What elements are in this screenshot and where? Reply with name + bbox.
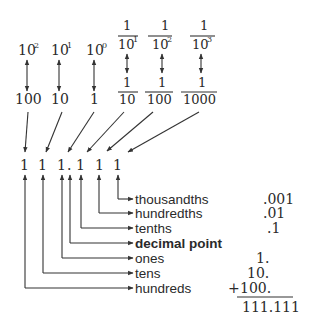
svg-text:1: 1 [200,18,208,33]
power-exponent: 0 [102,41,107,50]
arrow-icon [107,112,153,151]
digit-hundreds: 1 [20,157,29,173]
digit-thousandths: 1 [113,157,122,173]
sum-column: .001 .01 .1 1. 10. + 100. 111.111 [228,191,300,315]
place-labels: thousandths hundredths tenths decimal po… [135,192,223,296]
label-thousandths: thousandths [135,192,209,207]
label-tens: tens [135,266,161,281]
power-value: 1 [90,91,99,107]
arrow-icon [128,112,199,152]
mapping-arrows [25,112,199,152]
digit-tenths: 1 [76,157,85,173]
svg-text:1000: 1000 [183,92,216,107]
value-hundreds: 100. [240,280,271,296]
value-tenths: .1 [267,220,280,236]
fraction-thousandths: 1 10 3 1 1000 [181,18,217,107]
svg-text:1: 1 [158,75,166,90]
digit-tens: 1 [38,157,47,173]
label-connectors [25,175,133,288]
svg-text:1: 1 [161,18,169,33]
label-decimal-point: decimal point [135,236,223,251]
decimal-point: . [67,157,71,173]
svg-text:1: 1 [123,18,131,33]
place-value-diagram: 10 2 100 10 1 10 10 0 1 1 10 1 1 10 1 10… [0,0,309,321]
value-ones: 1. [256,250,269,266]
power-ones: 10 0 1 [86,41,107,107]
svg-text:100: 100 [147,92,172,107]
power-value: 100 [15,91,42,107]
label-ones: ones [135,251,165,266]
power-exponent: 2 [34,41,39,50]
arrow-icon [25,112,28,152]
sum-total: 111.111 [242,299,300,315]
power-tens: 10 1 10 [51,41,72,107]
arrow-icon [87,112,124,152]
power-hundreds: 10 2 100 [15,41,42,107]
plus-sign: + [228,280,240,296]
power-value: 10 [51,91,69,107]
value-hundredths: .01 [263,205,285,221]
fraction-hundredths: 1 10 2 1 100 [145,18,173,107]
arrow-icon [68,112,94,152]
label-hundreds: hundreds [135,281,192,296]
svg-text:3: 3 [207,35,212,44]
svg-text:2: 2 [167,35,172,44]
svg-text:1: 1 [198,75,206,90]
svg-text:10: 10 [119,92,136,107]
arrow-icon [46,112,62,152]
number-digits: 1 1 1 . 1 1 1 [20,157,122,173]
value-tens: 10. [247,265,269,281]
digit-ones: 1 [57,157,66,173]
svg-text:1: 1 [133,35,138,44]
digit-hundredths: 1 [95,157,104,173]
power-exponent: 1 [67,41,72,50]
svg-text:1: 1 [123,75,131,90]
label-tenths: tenths [135,221,172,236]
fraction-tenths: 1 10 1 1 10 [118,18,138,107]
label-hundredths: hundredths [135,206,203,221]
